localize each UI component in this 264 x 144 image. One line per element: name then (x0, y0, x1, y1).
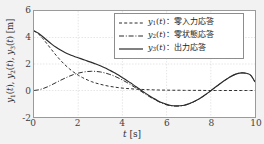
legend-separator-y3: ： (166, 43, 174, 52)
x-tick-label: 8 (209, 119, 215, 128)
x-axis-label-var: t (123, 129, 127, 139)
legend-separator-y2: ： (166, 30, 174, 39)
legend-text-y2: 零状態応答 (174, 30, 214, 39)
x-tick-label: 4 (119, 119, 125, 128)
legend-label-y1: y1(t)：零入力応答 (148, 18, 214, 27)
legend-box: y1(t)：零入力応答 y2(t)：零状態応答 y3(t)：出力応答 (114, 13, 244, 59)
curve-y2-zero-state (34, 71, 255, 106)
legend-entry-y3: y3(t)：出力応答 (118, 42, 240, 55)
x-tick-label: 6 (164, 119, 170, 128)
legend-text-y3: 出力応答 (174, 43, 206, 52)
legend-text-y1: 零入力応答 (174, 17, 214, 26)
legend-entry-y2: y2(t)：零状態応答 (118, 29, 240, 42)
x-tick-label: 10 (250, 119, 261, 128)
legend-sample-solid (118, 43, 144, 55)
legend-sample-dashdot (118, 30, 144, 42)
legend-label-y3: y3(t)：出力応答 (148, 44, 206, 53)
legend-sample-dashed (118, 17, 144, 29)
x-axis-label: t [s] (0, 130, 264, 139)
legend-entry-y1: y1(t)：零入力応答 (118, 16, 240, 29)
legend-separator-y1: ： (166, 17, 174, 26)
legend-label-y2: y2(t)：零状態応答 (148, 31, 214, 40)
figure-canvas: 6 4 2 0 -2 0 2 4 6 8 10 t [s] y1(t), y2(… (0, 0, 264, 144)
x-tick-label: 0 (30, 119, 36, 128)
y-axis-label: y1(t), y2(t), y3(t) [m] (6, 0, 15, 124)
x-axis-label-unit: [s] (129, 129, 141, 139)
x-tick-label: 2 (75, 119, 81, 128)
